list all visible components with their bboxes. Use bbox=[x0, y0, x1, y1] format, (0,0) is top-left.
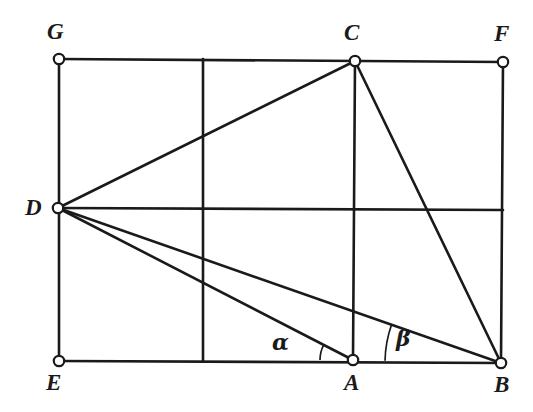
vertex-label-E: E bbox=[46, 371, 61, 394]
angle-label-alpha: α bbox=[272, 331, 289, 353]
angle-label-beta: β bbox=[396, 327, 411, 349]
vertex-B bbox=[496, 358, 506, 368]
geometry-diagram bbox=[0, 0, 533, 412]
vertex-G bbox=[54, 54, 64, 64]
diagonal-D-A bbox=[58, 208, 353, 360]
figure-canvas: G C F D E A B α β bbox=[0, 0, 533, 412]
vertex-label-B: B bbox=[494, 373, 509, 396]
edge-F-B bbox=[501, 62, 503, 363]
segments-layer bbox=[58, 59, 503, 363]
vertex-label-G: G bbox=[47, 20, 64, 43]
vertex-C bbox=[350, 56, 360, 66]
grid-horizontal-D-F bbox=[58, 208, 503, 210]
diagonal-C-B bbox=[355, 61, 501, 363]
vertex-label-F: F bbox=[494, 22, 509, 45]
vertex-label-D: D bbox=[25, 196, 42, 219]
diagonal-D-C bbox=[58, 61, 355, 208]
vertex-label-A: A bbox=[344, 371, 359, 394]
edge-G-F bbox=[59, 59, 503, 62]
vertex-label-C: C bbox=[344, 21, 359, 44]
vertex-E bbox=[54, 356, 64, 366]
edge-E-B bbox=[59, 361, 501, 363]
vertex-F bbox=[498, 57, 508, 67]
angle-arc-alpha bbox=[320, 345, 324, 360]
vertex-A bbox=[348, 355, 358, 365]
angle-arc-beta bbox=[385, 325, 391, 361]
vertex-D bbox=[53, 203, 63, 213]
